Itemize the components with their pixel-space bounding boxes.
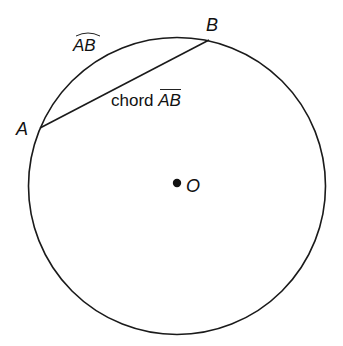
- arc-ab-label: AB: [73, 37, 96, 54]
- chord-ab-label: chord AB: [111, 92, 181, 109]
- circle-diagram: [0, 0, 343, 346]
- center-label-o: O: [186, 177, 200, 195]
- arc-notation: AB: [73, 37, 96, 54]
- arc-name: AB: [73, 36, 96, 55]
- center-point-o: [173, 179, 181, 187]
- chord-ab-line: [40, 40, 209, 128]
- arc-overmark-icon: [75, 30, 101, 37]
- point-label-a: A: [16, 120, 28, 138]
- chord-name: AB: [158, 92, 181, 109]
- chord-word: chord: [111, 91, 154, 110]
- point-label-b: B: [206, 16, 218, 34]
